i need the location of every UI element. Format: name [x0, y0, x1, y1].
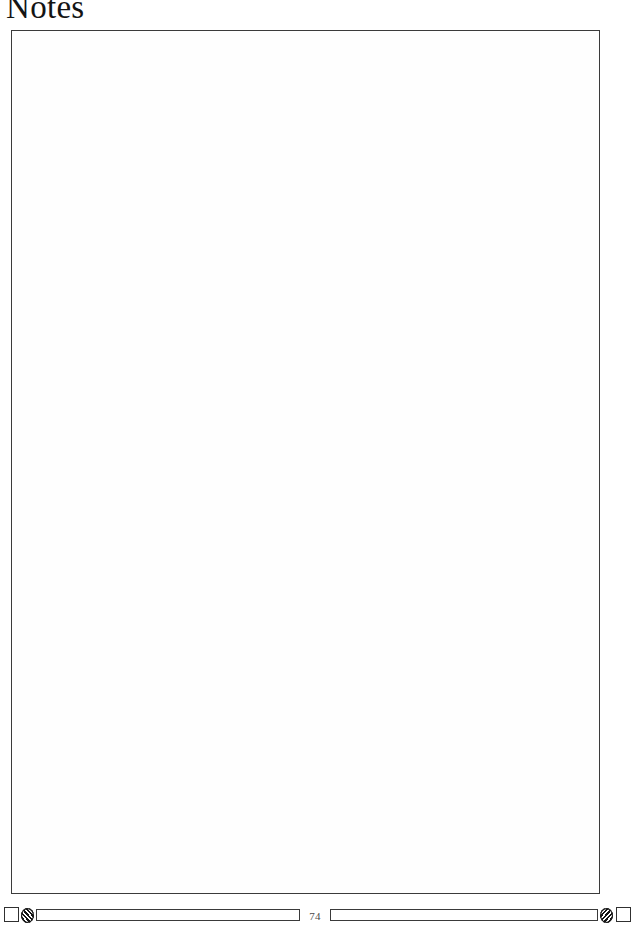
page-number: 74: [303, 911, 327, 922]
footer-ornament-rule: 74: [0, 905, 635, 931]
hatched-ellipse-ornament-icon: [600, 908, 613, 923]
square-ornament-icon: [616, 907, 631, 922]
notes-writing-area[interactable]: [11, 30, 600, 894]
hatched-ellipse-ornament-icon: [21, 908, 34, 923]
bar-ornament-left: [36, 909, 300, 921]
scanned-page: Notes 74: [0, 0, 635, 950]
bar-ornament-right: [330, 909, 598, 921]
square-ornament-icon: [4, 907, 19, 922]
scan-speck-icon: [342, 316, 343, 317]
scan-speck-icon: [314, 294, 316, 296]
page-title: Notes: [6, 0, 85, 24]
